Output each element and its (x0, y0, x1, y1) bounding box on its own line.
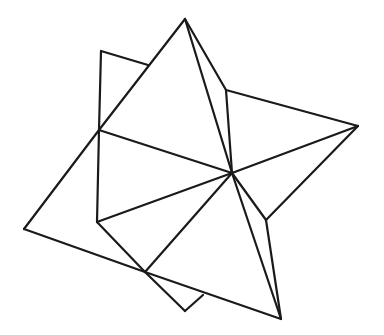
edge-left-center (99, 130, 232, 173)
diagram-canvas (0, 0, 384, 335)
edge-right_tip-notch_lower_right (266, 126, 358, 220)
edge-sq_top_left-sq_top_join (101, 51, 148, 65)
edge-notch_upper_right-right_tip (226, 90, 358, 126)
edge-sq_top_left-left (99, 51, 101, 130)
figure-edges (24, 19, 358, 319)
edge-right_tip-center (232, 126, 358, 173)
edge-left_tip-lower_cross (24, 229, 145, 272)
edge-lower_cross-bottom_tip (145, 272, 281, 319)
edge-left-left_tip (24, 130, 99, 229)
edge-top-left (99, 19, 185, 130)
edge-top-notch_upper_right (185, 19, 226, 90)
edge-center-bottom_tip (232, 173, 281, 319)
edge-center-notch_lower_right (232, 173, 266, 220)
edge-left-lower_left (97, 130, 99, 222)
star-polyhedron-figure (0, 0, 384, 335)
edge-notch_lower_right-bottom_tip (266, 220, 281, 319)
edge-top-center (185, 19, 232, 173)
edge-sq_bottom-sq_bottom_join (185, 295, 203, 311)
